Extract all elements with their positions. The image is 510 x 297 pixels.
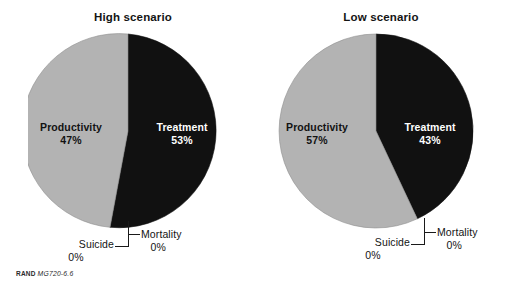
leader-lines-high-scenario	[0, 0, 255, 297]
rand-wordmark: RAND	[16, 270, 36, 277]
figure-source-footer: RANDMG720-6.6	[16, 270, 73, 277]
callout-low-mortality-pct: 0%	[437, 239, 478, 252]
callout-low-suicide-pct: 0%	[348, 249, 410, 262]
callout-high-mortality-pct: 0%	[141, 241, 182, 254]
callout-low-suicide: Suicide 0%	[348, 236, 410, 262]
callout-low-mortality-text: Mortality	[437, 226, 478, 238]
figure-canvas: High scenario Low scenario Productivity …	[0, 0, 510, 297]
callout-high-suicide-pct: 0%	[52, 251, 114, 264]
callout-low-mortality: Mortality 0%	[437, 226, 478, 252]
callout-high-suicide-text: Suicide	[79, 238, 114, 250]
callout-high-mortality: Mortality 0%	[141, 228, 182, 254]
figure-number: MG720-6.6	[38, 270, 74, 277]
callout-low-suicide-text: Suicide	[375, 236, 410, 248]
callout-high-suicide: Suicide 0%	[52, 238, 114, 264]
callout-high-mortality-text: Mortality	[141, 228, 182, 240]
